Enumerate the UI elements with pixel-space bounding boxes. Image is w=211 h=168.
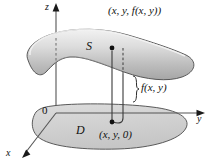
height-brace-path [133, 76, 139, 102]
label-origin: 0 [42, 105, 48, 116]
base-point-marker [110, 120, 115, 125]
label-axis-y: y [197, 114, 201, 124]
surface-s-shape [27, 29, 194, 80]
label-height-fxy: f(x, y) [141, 82, 167, 93]
figure-canvas [0, 0, 211, 168]
height-brace [133, 76, 139, 102]
label-base-point: (x, y, 0) [99, 129, 132, 140]
label-surface-s: S [86, 40, 92, 52]
label-axis-x: x [6, 148, 10, 158]
surface-s-outline [27, 29, 194, 80]
region-d-outline [32, 104, 187, 149]
surface-point-marker [110, 46, 115, 51]
x-axis-arrowhead [22, 150, 30, 158]
label-surface-point: (x, y, f(x, y)) [108, 5, 161, 16]
surface-over-region-figure: (x, y, f(x, y)) S f(x, y) (x, y, 0) D z … [0, 0, 211, 168]
region-d-shape [32, 104, 187, 149]
label-region-d: D [76, 124, 85, 136]
label-axis-z: z [45, 2, 49, 12]
z-axis-arrowhead [53, 3, 60, 12]
